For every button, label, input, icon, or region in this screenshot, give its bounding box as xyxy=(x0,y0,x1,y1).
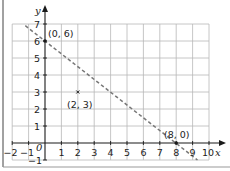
point-label-8-0: (8, 0) xyxy=(164,129,190,140)
x-tick-label: 8 xyxy=(173,147,179,158)
point-0-6 xyxy=(43,39,47,43)
y-tick-label: 3 xyxy=(34,87,40,98)
coordinate-graph: −2 −1 1 2 3 4 5 6 7 8 9 10 −1 1 2 3 4 5 … xyxy=(0,0,230,171)
y-tick-label: 1 xyxy=(34,121,40,132)
y-tick-label: 4 xyxy=(34,70,40,81)
x-tick-label: 2 xyxy=(75,147,81,158)
y-tick-label: −1 xyxy=(28,155,42,166)
x-tick-label: 5 xyxy=(124,147,130,158)
x-tick-label: 9 xyxy=(190,147,196,158)
axes xyxy=(12,9,222,160)
x-axis-label: x xyxy=(215,147,221,158)
x-tick-label: 1 xyxy=(58,147,64,158)
y-tick-label: 5 xyxy=(34,53,40,64)
x-tick-label: 10 xyxy=(202,147,214,158)
origin-label: 0 xyxy=(36,142,43,153)
x-tick-label: 7 xyxy=(157,147,163,158)
y-tick-label: 7 xyxy=(34,19,40,30)
y-axis-arrow-icon xyxy=(42,5,48,12)
point-label-2-3: (2, 3) xyxy=(67,99,93,110)
x-tick-label: 4 xyxy=(108,147,114,158)
x-tick-label: 3 xyxy=(91,147,97,158)
y-tick-label: 6 xyxy=(34,36,40,47)
point-8-0 xyxy=(174,141,178,145)
x-tick-label: −2 xyxy=(3,147,17,158)
y-tick-label: 2 xyxy=(34,104,40,115)
y-axis-label: y xyxy=(34,5,41,16)
x-tick-label: 6 xyxy=(140,147,146,158)
point-label-0-6: (0, 6) xyxy=(48,28,74,39)
x-axis-arrow-icon xyxy=(219,140,226,146)
